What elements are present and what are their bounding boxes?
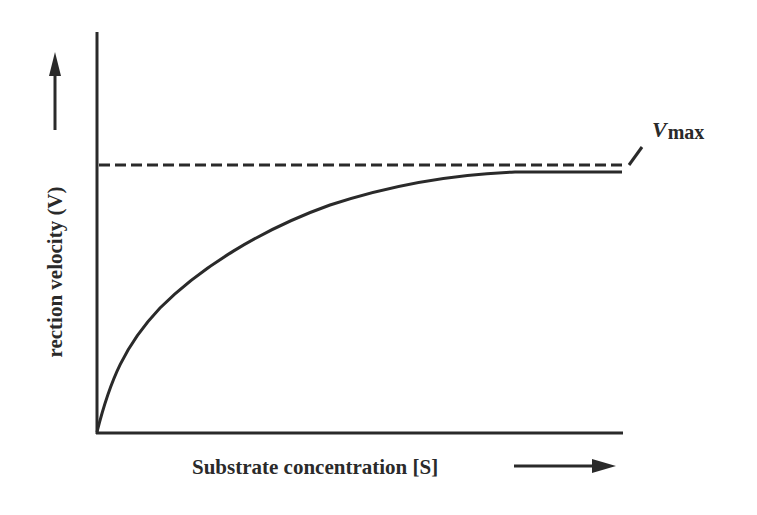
x-direction-arrow-icon xyxy=(514,459,616,473)
y-direction-arrow-icon xyxy=(49,52,61,130)
michaelis-menten-chart: Vmax rection velocity (V) Substrate conc… xyxy=(0,0,757,515)
saturation-curve xyxy=(97,172,622,432)
x-axis-label: Substrate concentration [S] xyxy=(192,455,438,479)
y-axis-label: rection velocity (V) xyxy=(43,186,67,357)
vmax-label: Vmax xyxy=(652,117,704,143)
vmax-pointer-slash xyxy=(629,147,642,165)
